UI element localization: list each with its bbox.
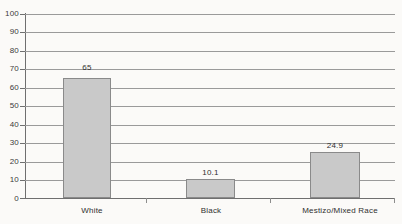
x-axis-category-label: Black: [161, 206, 261, 216]
y-axis-tick-label: 50: [1, 102, 19, 110]
bar-white[interactable]: [63, 78, 111, 198]
y-axis-labels: 100 90 80 70 60 50 40 30 20 10 0: [0, 0, 19, 224]
bar-black[interactable]: [186, 179, 235, 198]
x-axis-category-label: Mestizo/Mixed Race: [285, 206, 395, 216]
bar-value-label: 24.9: [310, 142, 360, 150]
y-axis-tick-label: 20: [1, 158, 19, 166]
chart-page: 100 90 80 70 60 50 40 30 20 10 0: [0, 0, 402, 224]
chart-title-fragment: [0, 0, 402, 3]
y-axis-tick-label: 100: [1, 10, 19, 18]
bar-mestizo-mixed-race[interactable]: [310, 152, 360, 198]
bar-value-label: 65: [63, 64, 111, 72]
y-axis-tick-label: 40: [1, 121, 19, 129]
x-axis-category-label: White: [42, 206, 142, 216]
bar-value-label: 10.1: [186, 169, 235, 177]
y-axis-tick-label: 60: [1, 84, 19, 92]
y-axis-tick-label: 10: [1, 176, 19, 184]
x-axis-baseline: [25, 198, 395, 199]
y-axis-tick-label: 90: [1, 28, 19, 36]
y-axis-tick-label: 80: [1, 47, 19, 55]
y-axis-tick-label: 0: [1, 195, 19, 203]
y-axis-tick-label: 30: [1, 139, 19, 147]
y-axis-tick-label: 70: [1, 65, 19, 73]
